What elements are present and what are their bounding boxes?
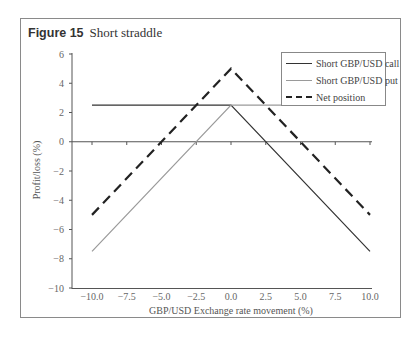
y-tick-label: 4 — [59, 78, 64, 89]
legend-item-call: Short GBP/USD call — [286, 56, 399, 70]
legend: Short GBP/USD call Short GBP/USD put Net… — [281, 52, 386, 106]
legend-swatch-solid-light — [286, 80, 312, 81]
x-tick-label: 7.5 — [329, 291, 342, 302]
y-tick-label: −6 — [53, 224, 64, 235]
legend-label: Short GBP/USD call — [316, 58, 399, 69]
legend-item-put: Short GBP/USD put — [286, 73, 398, 87]
x-tick-label: −2.5 — [187, 291, 205, 302]
x-tick-label: −5.0 — [152, 291, 170, 302]
y-tick-label: −4 — [53, 195, 64, 206]
x-axis-label: GBP/USD Exchange rate movement (%) — [149, 305, 313, 317]
y-tick-label: −8 — [53, 253, 64, 264]
y-ticks: 6420−2−4−6−8−10 — [48, 49, 72, 294]
y-tick-label: 0 — [59, 136, 64, 147]
x-tick-label: 0.0 — [225, 291, 238, 302]
x-ticks: −10.0−7.5−5.0−2.50.02.55.07.510.0 — [80, 291, 378, 302]
x-tick-label: 5.0 — [294, 291, 307, 302]
x-tick-label: −7.5 — [118, 291, 136, 302]
series-call-line — [92, 105, 370, 251]
legend-label: Net position — [316, 92, 365, 103]
legend-swatch-dashed — [286, 96, 312, 98]
x-tick-label: −10.0 — [80, 291, 103, 302]
y-tick-label: 2 — [59, 107, 64, 118]
y-tick-label: −10 — [48, 283, 64, 294]
chart-plot: 6420−2−4−6−8−10 −10.0−7.5−5.0−2.50.02.55… — [0, 0, 420, 338]
x-tick-label: 10.0 — [361, 291, 379, 302]
y-tick-label: −2 — [53, 166, 64, 177]
legend-item-net: Net position — [286, 90, 365, 104]
legend-label: Short GBP/USD put — [316, 75, 398, 86]
x-tick-label: 2.5 — [260, 291, 273, 302]
y-tick-label: 6 — [59, 49, 64, 60]
y-axis-label: Profit/loss (%) — [31, 141, 43, 200]
legend-swatch-solid-dark — [286, 63, 312, 64]
series-put-line — [92, 105, 370, 251]
